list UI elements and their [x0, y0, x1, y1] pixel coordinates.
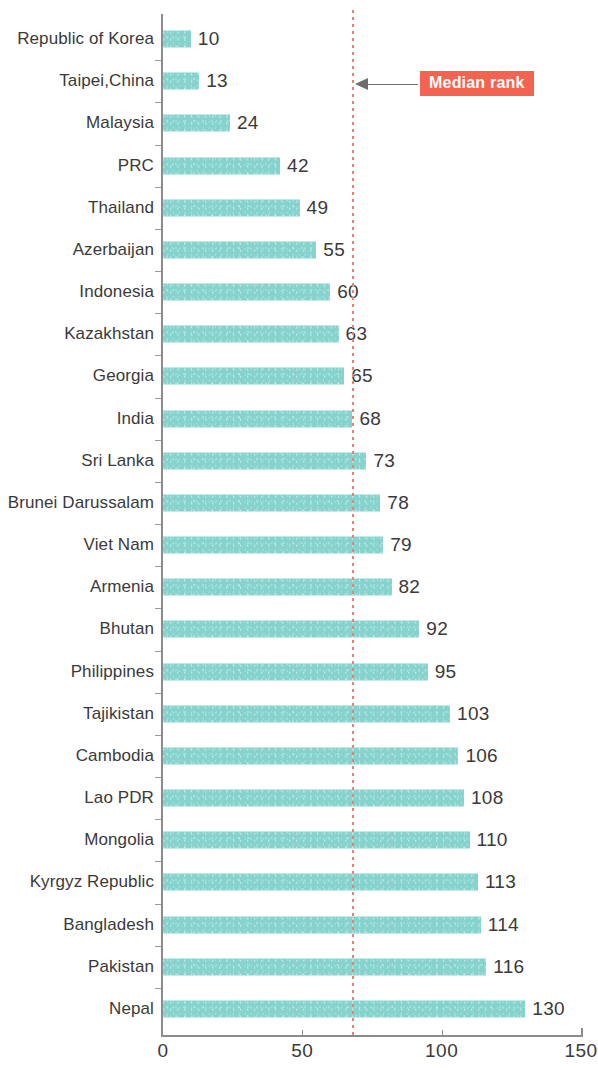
bar — [163, 832, 470, 849]
table-row: Brunei Darussalam78 — [0, 482, 594, 524]
category-label: Philippines — [71, 662, 154, 682]
category-label: Lao PDR — [84, 788, 154, 808]
category-label: Nepal — [109, 999, 154, 1019]
y-axis-tick — [155, 651, 161, 652]
y-axis-tick — [155, 271, 161, 272]
bar-value-label: 114 — [488, 914, 519, 936]
y-axis-tick — [155, 735, 161, 736]
table-row: Malaysia24 — [0, 102, 594, 144]
bar — [163, 537, 383, 554]
table-row: Tajikistan103 — [0, 693, 594, 735]
bar — [163, 1000, 525, 1017]
bar — [163, 410, 352, 427]
bar — [163, 199, 300, 216]
category-label: Cambodia — [76, 746, 154, 766]
table-row: Pakistan116 — [0, 946, 594, 988]
bar-value-label: 49 — [307, 197, 329, 219]
x-axis-tick — [302, 1030, 303, 1036]
y-axis-tick — [155, 313, 161, 314]
bar-value-label: 130 — [532, 998, 565, 1020]
bar-value-label: 78 — [387, 492, 409, 514]
table-row: India68 — [0, 398, 594, 440]
y-axis-tick — [155, 440, 161, 441]
bar — [163, 284, 330, 301]
category-label: Brunei Darussalam — [8, 493, 154, 513]
bar-value-label: 63 — [346, 323, 368, 345]
bar — [163, 579, 392, 596]
bar-value-label: 108 — [471, 787, 504, 809]
y-axis-tick — [155, 398, 161, 399]
bar — [163, 874, 478, 891]
y-axis-tick — [155, 693, 161, 694]
table-row: Lao PDR108 — [0, 777, 594, 819]
category-label: Taipei,China — [59, 71, 154, 91]
table-row: Cambodia106 — [0, 735, 594, 777]
category-label: Viet Nam — [84, 535, 154, 555]
bar-value-label: 82 — [399, 576, 421, 598]
bar — [163, 916, 481, 933]
category-label: Armenia — [90, 577, 154, 597]
bar-value-label: 73 — [373, 450, 395, 472]
table-row: Kyrgyz Republic113 — [0, 861, 594, 903]
y-axis-tick — [155, 524, 161, 525]
bar-value-label: 10 — [198, 28, 220, 50]
bar-value-label: 13 — [206, 70, 228, 92]
table-row: Bhutan92 — [0, 608, 594, 650]
category-label: Thailand — [88, 198, 154, 218]
bar-value-label: 55 — [323, 239, 345, 261]
bar — [163, 115, 230, 132]
bar — [163, 494, 380, 511]
category-label: India — [117, 409, 154, 429]
table-row: Bangladesh114 — [0, 904, 594, 946]
table-row: Azerbaijan55 — [0, 229, 594, 271]
x-axis-tick-label: 100 — [425, 1040, 458, 1062]
table-row: PRC42 — [0, 145, 594, 187]
bar-value-label: 116 — [493, 956, 524, 978]
category-label: Malaysia — [86, 113, 154, 133]
category-label: Azerbaijan — [73, 240, 154, 260]
bar — [163, 452, 366, 469]
category-label: Bhutan — [100, 619, 154, 639]
median-arrow-line — [368, 84, 418, 85]
y-axis-tick — [155, 60, 161, 61]
table-row: Sri Lanka73 — [0, 440, 594, 482]
table-row: Republic of Korea10 — [0, 18, 594, 60]
y-axis-tick — [155, 229, 161, 230]
category-label: Mongolia — [84, 830, 154, 850]
category-label: Bangladesh — [63, 915, 154, 935]
y-axis-tick — [155, 819, 161, 820]
bar — [163, 31, 191, 48]
table-row: Philippines95 — [0, 651, 594, 693]
x-axis-tick — [442, 1030, 443, 1036]
bar-value-label: 79 — [390, 534, 412, 556]
y-axis-tick — [155, 861, 161, 862]
median-rank-badge: Median rank — [420, 71, 534, 96]
bar — [163, 705, 450, 722]
y-axis-tick — [155, 988, 161, 989]
bar-value-label: 92 — [426, 618, 448, 640]
table-row: Indonesia60 — [0, 271, 594, 313]
bar-value-label: 42 — [287, 155, 309, 177]
category-label: Indonesia — [79, 282, 154, 302]
category-label: Georgia — [93, 366, 154, 386]
bar — [163, 157, 280, 174]
bar-value-label: 110 — [477, 829, 508, 851]
y-axis-tick — [155, 608, 161, 609]
table-row: Kazakhstan63 — [0, 313, 594, 355]
category-label: Pakistan — [88, 957, 154, 977]
bar — [163, 241, 316, 258]
category-label: Republic of Korea — [17, 29, 154, 49]
table-row: Viet Nam79 — [0, 524, 594, 566]
y-axis-tick — [155, 566, 161, 567]
bar-value-label: 68 — [359, 408, 381, 430]
category-label: Tajikistan — [83, 704, 154, 724]
bar-value-label: 106 — [465, 745, 498, 767]
y-axis-tick — [155, 145, 161, 146]
bar-value-label: 113 — [485, 871, 516, 893]
x-axis-tick-label: 150 — [564, 1040, 597, 1062]
median-arrow-head-icon — [355, 78, 368, 90]
bar — [163, 621, 419, 638]
bar — [163, 747, 458, 764]
table-row: Mongolia110 — [0, 819, 594, 861]
